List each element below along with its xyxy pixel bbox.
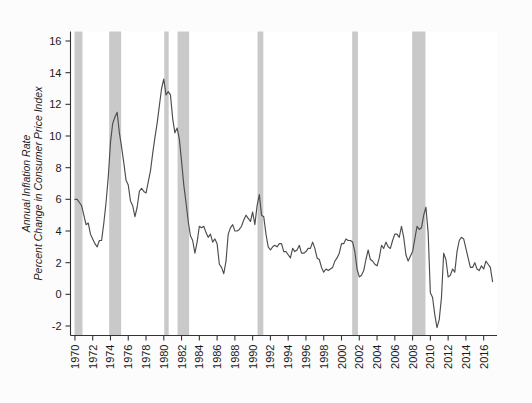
plot-area-background [71, 32, 498, 336]
x-tick-label: 1974 [104, 345, 116, 369]
x-tick-label: 2006 [389, 345, 401, 369]
recession-1990-1991 [258, 32, 264, 336]
y-tick-label: 4 [55, 225, 61, 237]
x-tick-label: 1996 [300, 345, 312, 369]
x-tick-label: 2010 [424, 345, 436, 369]
x-tick-label: 2016 [478, 345, 490, 369]
y-tick-label: 12 [49, 98, 61, 110]
x-tick-label: 2012 [442, 345, 454, 369]
x-tick-label: 1994 [282, 345, 294, 369]
x-tick-label: 2000 [336, 345, 348, 369]
recession-2001 [352, 32, 358, 336]
x-tick-label: 1984 [193, 345, 205, 369]
x-tick-label: 1992 [264, 345, 276, 369]
x-tick-label: 1970 [69, 345, 81, 369]
x-tick-label: 1982 [176, 345, 188, 369]
chart-canvas: 1970197219741976197819801982198419861988… [0, 0, 532, 403]
y-tick-label: 16 [49, 35, 61, 47]
x-tick-label: 1978 [140, 345, 152, 369]
x-tick-label: 1976 [122, 345, 134, 369]
y-tick-label: 10 [49, 130, 61, 142]
x-tick-label: 2002 [353, 345, 365, 369]
recession-1980 [164, 32, 168, 336]
recession-1969-1970 [74, 32, 82, 336]
x-tick-label: 1980 [158, 345, 170, 369]
recession-1973-1975 [109, 32, 121, 336]
y-tick-label: -2 [52, 320, 62, 332]
x-tick-label: 1986 [211, 345, 223, 369]
y-tick-label: 2 [55, 257, 61, 269]
recession-2007-2009 [412, 32, 425, 336]
x-tick-label: 1972 [87, 345, 99, 369]
x-tick-label: 2004 [371, 345, 383, 369]
inflation-chart-figure: 1970197219741976197819801982198419861988… [0, 0, 532, 403]
x-tick-label: 2008 [407, 345, 419, 369]
y-tick-label: 0 [55, 288, 61, 300]
y-axis-title-line-1: Annual Inflation Rate [20, 135, 32, 234]
x-tick-label: 2014 [460, 345, 472, 369]
y-tick-label: 8 [55, 162, 61, 174]
y-tick-label: 14 [49, 67, 61, 79]
x-tick-label: 1998 [318, 345, 330, 369]
x-tick-label: 1988 [229, 345, 241, 369]
y-tick-label: 6 [55, 193, 61, 205]
y-axis-title-line-2: Percent Change in Consumer Price Index [32, 86, 44, 281]
x-tick-label: 1990 [247, 345, 259, 369]
